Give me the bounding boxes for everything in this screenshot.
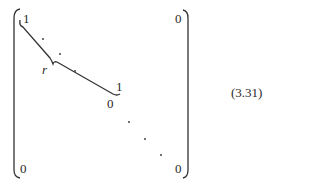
diagonal-brace bbox=[20, 20, 120, 95]
diagonal-dot bbox=[74, 70, 76, 72]
brace-label-r: r bbox=[42, 63, 47, 76]
right-bracket bbox=[183, 10, 188, 178]
entry-top-left: 1 bbox=[23, 12, 30, 25]
entry-top-right: 0 bbox=[175, 12, 182, 25]
entry-block-next: 0 bbox=[107, 97, 114, 110]
entry-bottom-left: 0 bbox=[20, 162, 27, 175]
diagonal-dot bbox=[128, 121, 130, 123]
matrix-brackets-and-brace bbox=[0, 0, 310, 189]
diagonal-dot bbox=[59, 53, 61, 55]
entry-block-end: 1 bbox=[116, 80, 123, 93]
diagonal-dot bbox=[42, 38, 44, 40]
left-bracket bbox=[14, 9, 20, 178]
equation-number: (3.31) bbox=[231, 86, 262, 100]
diagonal-dot bbox=[144, 138, 146, 140]
diagonal-dot bbox=[160, 154, 162, 156]
entry-bottom-right: 0 bbox=[175, 162, 182, 175]
